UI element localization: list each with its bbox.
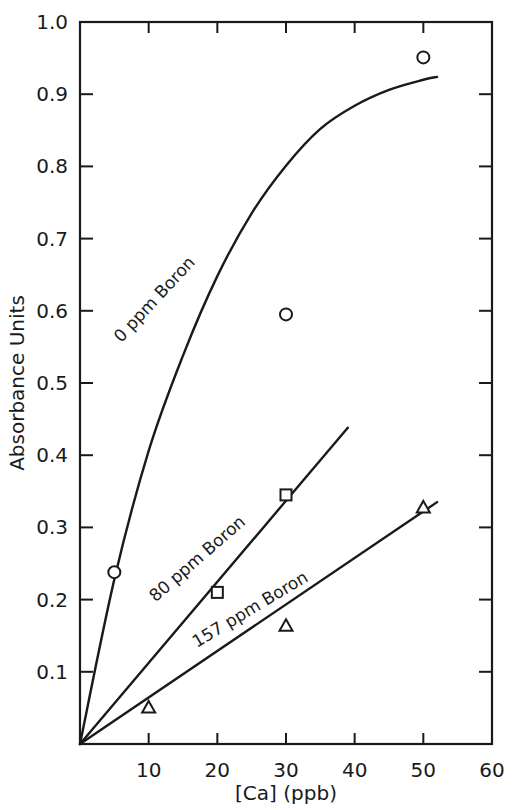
y-axis-title: Absorbance Units [5, 295, 29, 471]
y-tick-label: 0.7 [36, 227, 68, 251]
series-label-0: 0 ppm Boron [109, 252, 198, 346]
x-axis-ticks [149, 733, 424, 744]
x-axis-ticks-top [149, 22, 424, 33]
curve-circle [80, 77, 437, 744]
y-tick-label: 0.8 [36, 154, 68, 178]
x-axis-tick-labels: 102030405060 [136, 758, 505, 782]
marker-circle [280, 308, 292, 320]
x-tick-label: 10 [136, 758, 161, 782]
y-tick-label: 0.1 [36, 660, 68, 684]
marker-square [212, 587, 223, 598]
curve-triangle [80, 502, 437, 744]
marker-circle [108, 566, 120, 578]
series-label-2: 157 ppm Boron [188, 567, 311, 652]
marker-triangle [417, 501, 430, 513]
y-axis-ticks-right [479, 94, 492, 672]
y-tick-label: 0.5 [36, 371, 68, 395]
absorbance-calibration-chart: 102030405060 0.10.20.30.40.50.60.70.80.9… [0, 0, 515, 810]
x-axis-title: [Ca] (ppb) [235, 781, 337, 805]
y-tick-label: 0.4 [36, 443, 68, 467]
y-tick-label: 1.0 [36, 10, 68, 34]
y-tick-label: 0.2 [36, 588, 68, 612]
marker-circle [417, 51, 429, 63]
x-tick-label: 30 [273, 758, 298, 782]
plot-frame [80, 22, 492, 744]
x-tick-label: 40 [342, 758, 367, 782]
marker-triangle [142, 701, 155, 713]
y-axis-tick-labels: 0.10.20.30.40.50.60.70.80.91.0 [36, 10, 68, 684]
marker-triangle [280, 619, 293, 631]
data-point-markers [108, 51, 430, 712]
y-tick-label: 0.6 [36, 299, 68, 323]
x-tick-label: 20 [205, 758, 230, 782]
fitted-curves [80, 77, 437, 744]
y-axis-ticks [80, 94, 93, 672]
x-tick-label: 50 [411, 758, 436, 782]
y-tick-label: 0.9 [36, 82, 68, 106]
chart-canvas: 102030405060 0.10.20.30.40.50.60.70.80.9… [0, 0, 515, 810]
series-label-1: 80 ppm Boron [145, 511, 249, 605]
x-tick-label: 60 [479, 758, 504, 782]
y-tick-label: 0.3 [36, 515, 68, 539]
axes-rectangle [80, 22, 492, 744]
marker-square [281, 489, 292, 500]
